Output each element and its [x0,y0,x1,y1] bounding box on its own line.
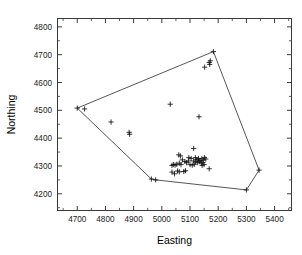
data-point [202,65,207,70]
data-point [207,166,212,171]
x-tick-label: 5300 [237,215,256,224]
y-tick-label: 4600 [34,79,53,88]
data-point [256,168,261,173]
plot-canvas: 4700480049005000510052005300540042004300… [0,0,302,255]
x-tick-label: 5100 [181,215,200,224]
y-axis-title: Northing [5,95,17,135]
x-tick-label: 5200 [209,215,228,224]
y-tick-label: 4500 [34,106,53,115]
x-tick-label: 5000 [153,215,172,224]
x-axis-title: Easting [157,234,192,246]
y-tick-label: 4200 [34,190,53,199]
data-point [108,119,113,124]
data-point [186,155,191,160]
data-point [244,187,249,192]
x-tick-label: 4800 [96,215,115,224]
data-point [82,106,87,111]
y-tick-label: 4300 [34,162,53,171]
scatter-plot-figure: 4700480049005000510052005300540042004300… [0,0,302,255]
data-point [211,49,216,54]
data-point [196,114,201,119]
convex-hull-polygon [77,52,259,190]
data-point [191,146,196,151]
y-tick-label: 4400 [34,134,53,143]
x-tick-label: 5400 [265,215,284,224]
data-point [168,102,173,107]
x-tick-label: 4700 [68,215,87,224]
data-point [189,156,194,161]
x-tick-label: 4900 [125,215,144,224]
y-tick-label: 4700 [34,51,53,60]
y-tick-label: 4800 [34,23,53,32]
data-point [153,177,158,182]
